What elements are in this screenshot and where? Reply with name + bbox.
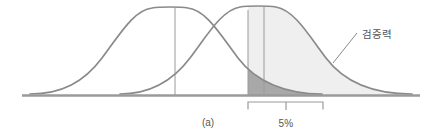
alpha-label: 5% — [279, 118, 294, 129]
power-label: 검증력 — [362, 28, 392, 40]
panel-caption: (a) — [202, 117, 214, 128]
figure-canvas: 검증력 5% (a) — [0, 0, 440, 138]
power-callout-leader-line — [333, 33, 357, 63]
statistical-power-figure: 검증력 5% (a) — [0, 0, 440, 138]
